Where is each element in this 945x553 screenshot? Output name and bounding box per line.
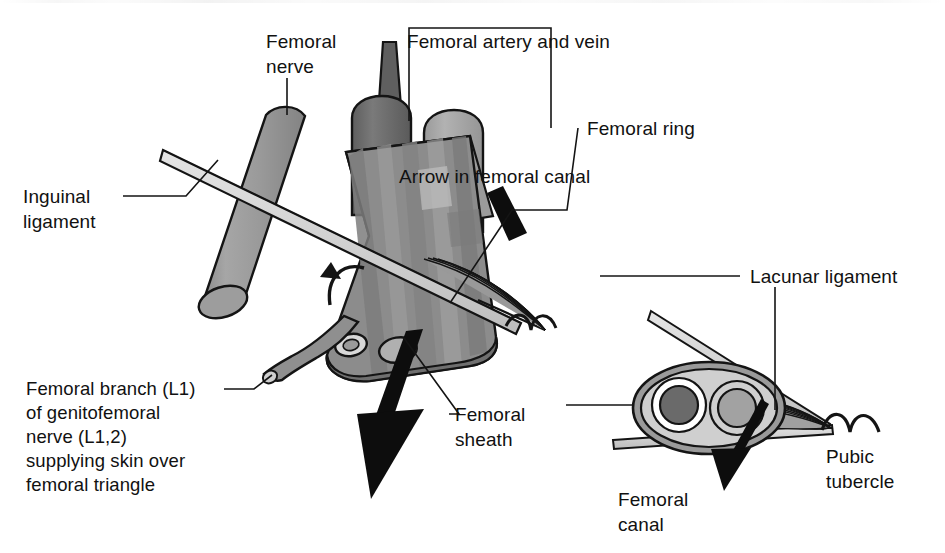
label-femoral-nerve: Femoral nerve (266, 29, 336, 79)
label-femoral-sheath: Femoral sheath (455, 402, 525, 452)
anatomy-figure: Femoral nerve Femoral artery and vein Fe… (0, 0, 945, 553)
label-inguinal-ligament: Inguinal ligament (23, 184, 96, 234)
label-femoral-branch-genitofemoral: Femoral branch (L1) of genitofemoral ner… (26, 377, 196, 497)
label-femoral-canal: Femoral canal (618, 487, 688, 537)
label-arrow-in-femoral-canal: Arrow in femoral canal (399, 164, 590, 189)
label-femoral-ring: Femoral ring (587, 116, 695, 141)
inset-artery (660, 386, 698, 424)
label-lacunar-ligament: Lacunar ligament (750, 264, 897, 289)
label-pubic-tubercle: Pubic tubercle (826, 444, 894, 494)
label-femoral-artery-and-vein: Femoral artery and vein (407, 29, 610, 54)
